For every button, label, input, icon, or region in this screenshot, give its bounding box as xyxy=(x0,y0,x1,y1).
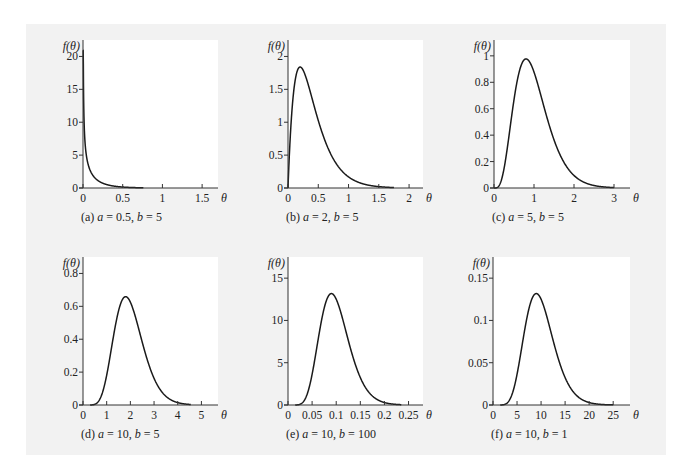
panel-caption: (a) a = 0.5, b = 5 xyxy=(81,210,162,224)
y-axis-label: f(θ) xyxy=(268,256,285,270)
y-tick-label: 0.8 xyxy=(475,76,490,88)
y-tick-label: 0.05 xyxy=(468,357,488,369)
y-tick-label: 1.5 xyxy=(269,83,284,95)
x-tick-label: 3 xyxy=(611,192,617,204)
x-tick-label: 0.05 xyxy=(302,409,322,421)
plot-area xyxy=(494,40,630,188)
plot-area xyxy=(288,257,423,405)
x-tick-label: 0.1 xyxy=(329,409,344,421)
x-tick-label: 2 xyxy=(571,192,577,204)
panel-caption: (f) a = 10, b = 1 xyxy=(491,427,568,441)
y-tick-label: 0 xyxy=(482,399,488,411)
gamma-density-figure: 0510152000.511.5f(θ)θ(a) a = 0.5, b = 5 … xyxy=(0,0,681,471)
plot-area xyxy=(83,257,218,405)
plot-area xyxy=(493,257,630,405)
y-axis-label: f(θ) xyxy=(473,256,490,270)
x-tick-label: 0.25 xyxy=(398,409,418,421)
y-tick-label: 0.1 xyxy=(474,314,489,326)
x-tick-label: 5 xyxy=(514,409,520,421)
y-tick-label: 0 xyxy=(483,182,489,194)
x-tick-label: 0 xyxy=(285,192,291,204)
y-tick-label: 0 xyxy=(277,182,283,194)
x-tick-label: 2 xyxy=(127,409,133,421)
x-tick-label: 0.5 xyxy=(116,192,131,204)
y-tick-label: 15 xyxy=(272,272,284,284)
y-axis-label: f(θ) xyxy=(63,39,80,53)
x-tick-label: 0 xyxy=(491,192,497,204)
y-tick-label: 0 xyxy=(277,399,283,411)
x-tick-label: 0.5 xyxy=(311,192,326,204)
x-tick-label: 20 xyxy=(583,409,595,421)
x-tick-label: 1 xyxy=(160,192,166,204)
y-axis-label: f(θ) xyxy=(63,256,80,270)
panel-caption: (e) a = 10, b = 100 xyxy=(286,427,376,441)
panel-caption: (d) a = 10, b = 5 xyxy=(81,427,160,441)
y-tick-label: 0.4 xyxy=(64,333,79,345)
panel-d: 00.20.40.60.8012345f(θ)θ(d) a = 10, b = … xyxy=(63,256,227,441)
panel-b: 00.511.5200.511.52f(θ)θ(b) a = 2, b = 5 xyxy=(268,39,432,224)
y-tick-label: 10 xyxy=(67,116,79,128)
x-axis-label: θ xyxy=(633,408,639,422)
plot-area xyxy=(288,40,423,188)
x-tick-label: 10 xyxy=(535,409,547,421)
x-axis-label: θ xyxy=(221,191,227,205)
x-axis-label: θ xyxy=(633,191,639,205)
x-axis-label: θ xyxy=(221,408,227,422)
y-tick-label: 0.2 xyxy=(64,366,79,378)
x-tick-label: 1.5 xyxy=(372,192,387,204)
x-tick-label: 0 xyxy=(80,192,86,204)
panel-caption: (c) a = 5, b = 5 xyxy=(492,210,564,224)
panel-f: 00.050.10.150510152025f(θ)θ(f) a = 10, b… xyxy=(468,256,639,441)
y-tick-label: 0.6 xyxy=(64,300,79,312)
panel-caption: (b) a = 2, b = 5 xyxy=(286,210,359,224)
y-tick-label: 5 xyxy=(72,149,78,161)
x-tick-label: 1 xyxy=(346,192,352,204)
x-tick-label: 0 xyxy=(80,409,86,421)
panel-c: 00.20.40.60.810123f(θ)θ(c) a = 5, b = 5 xyxy=(474,39,639,224)
x-tick-label: 5 xyxy=(199,409,205,421)
y-tick-label: 0.2 xyxy=(475,156,490,168)
y-axis-label: f(θ) xyxy=(268,39,285,53)
y-tick-label: 0.5 xyxy=(269,149,284,161)
x-tick-label: 4 xyxy=(175,409,181,421)
x-tick-label: 2 xyxy=(406,192,412,204)
x-tick-label: 0 xyxy=(490,409,496,421)
x-tick-label: 15 xyxy=(559,409,571,421)
y-tick-label: 1 xyxy=(277,116,283,128)
y-tick-label: 5 xyxy=(277,357,283,369)
y-tick-label: 15 xyxy=(67,83,79,95)
x-tick-label: 0.2 xyxy=(377,409,392,421)
panel-a: 0510152000.511.5f(θ)θ(a) a = 0.5, b = 5 xyxy=(63,39,227,224)
x-tick-label: 1 xyxy=(104,409,110,421)
x-tick-label: 3 xyxy=(151,409,157,421)
y-tick-label: 0 xyxy=(72,399,78,411)
x-axis-label: θ xyxy=(426,191,432,205)
x-tick-label: 0.15 xyxy=(350,409,370,421)
y-tick-label: 0.6 xyxy=(475,103,490,115)
y-axis-label: f(θ) xyxy=(474,39,491,53)
y-tick-label: 0 xyxy=(72,182,78,194)
x-tick-label: 25 xyxy=(607,409,619,421)
x-axis-label: θ xyxy=(426,408,432,422)
y-tick-label: 0.4 xyxy=(475,129,490,141)
y-tick-label: 10 xyxy=(272,314,284,326)
x-tick-label: 1.5 xyxy=(195,192,210,204)
y-tick-label: 0.15 xyxy=(468,272,488,284)
x-tick-label: 0 xyxy=(285,409,291,421)
plot-area xyxy=(83,40,218,188)
panel-e: 05101500.050.10.150.20.25f(θ)θ(e) a = 10… xyxy=(268,256,432,441)
x-tick-label: 1 xyxy=(531,192,537,204)
